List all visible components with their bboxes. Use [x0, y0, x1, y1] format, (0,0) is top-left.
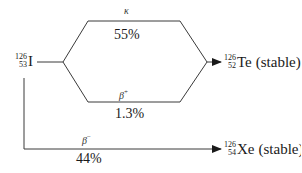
te-stable-note: (stable) — [256, 55, 301, 70]
parent-atomic-number: 53 — [19, 61, 27, 69]
te-atomic-number: 52 — [228, 62, 236, 70]
beta-plus-mode-label: β+ — [119, 89, 128, 101]
beta-plus-mode-sup: + — [124, 88, 128, 96]
xe-product-label: 126 54 Xe (stable) — [224, 141, 301, 157]
kappa-percent: 55% — [114, 28, 140, 42]
xe-stable-note: (stable) — [259, 142, 302, 157]
beta-minus-mode-sup: − — [87, 133, 91, 141]
parent-symbol: I — [28, 54, 33, 69]
te-product-label: 126 52 Te (stable) — [224, 54, 301, 70]
xe-atomic-number: 54 — [228, 149, 236, 157]
beta-minus-mode-label: β− — [82, 134, 91, 146]
parent-nuclide-label: 126 53 I — [15, 53, 33, 69]
parent-nuclide-scripts: 126 53 — [15, 53, 27, 69]
beta-plus-branch-path — [63, 62, 207, 102]
te-symbol: Te — [237, 55, 252, 70]
xe-nuclide-scripts: 126 54 — [224, 141, 236, 157]
xe-symbol: Xe — [237, 142, 255, 157]
beta-plus-percent: 1.3% — [115, 107, 144, 121]
kappa-mode-label: κ — [124, 6, 129, 16]
kappa-mode-symbol: κ — [124, 5, 129, 16]
te-nuclide-scripts: 126 52 — [224, 54, 236, 70]
beta-minus-percent: 44% — [76, 152, 102, 166]
